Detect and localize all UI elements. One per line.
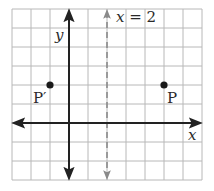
- y-axis-label: y: [54, 26, 64, 44]
- point-p-prime-label: P′: [33, 89, 47, 107]
- point-p-label: P: [167, 89, 177, 107]
- line-equation-value: = 2: [124, 8, 156, 26]
- point-p-dot: [160, 81, 167, 88]
- line-equation-label: x = 2: [116, 8, 156, 26]
- x-axis-label: x: [188, 126, 197, 144]
- coordinate-diagram: y x x = 2 P P′: [0, 0, 214, 191]
- point-p-prime-dot: [46, 81, 53, 88]
